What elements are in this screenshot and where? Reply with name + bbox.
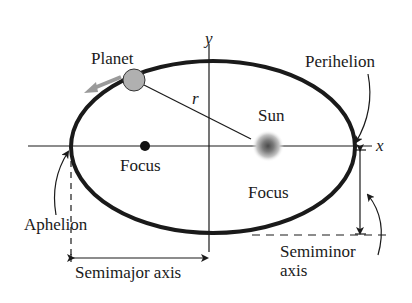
perihelion-pointer [356,74,370,142]
y-axis-label: y [205,30,213,47]
focus-right-label: Focus [248,184,289,201]
orbit-ellipse [71,61,355,233]
semimajor-label: Semimajor axis [75,264,181,281]
sun-icon [252,130,284,162]
planet-icon [123,69,145,91]
x-axis-label: x [376,137,384,154]
sun-label: Sun [258,107,284,124]
aphelion-pointer [55,152,69,215]
aphelion-label: Aphelion [24,216,87,233]
semiminor-pointer [368,195,381,255]
focus-left-label: Focus [120,157,161,174]
perihelion-label: Perihelion [305,53,375,70]
radius-label: r [192,90,199,107]
focus-dot [140,141,150,151]
semiminor-label-line1: Semiminor [280,243,356,260]
semiminor-label-line2: axis [280,262,307,279]
planet-label: Planet [91,50,134,67]
